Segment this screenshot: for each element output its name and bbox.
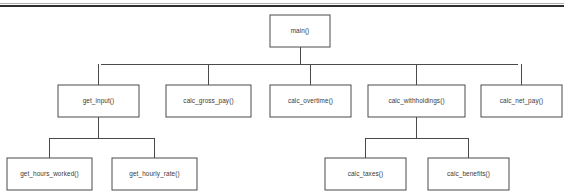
node-main[interactable]: main() — [270, 15, 330, 47]
structure-chart-diagram: main()get_input()calc_gross_pay()calc_ov… — [0, 0, 564, 195]
node-label-calc_taxes: calc_taxes() — [348, 170, 384, 178]
node-label-get_input: get_input() — [83, 97, 115, 105]
diagram-canvas: main()get_input()calc_gross_pay()calc_ov… — [0, 0, 564, 195]
header-rule-group — [0, 3, 564, 6]
node-label-calc_withholdings: calc_withholdings() — [388, 97, 444, 105]
node-layer: main()get_input()calc_gross_pay()calc_ov… — [7, 15, 562, 190]
node-calc_taxes[interactable]: calc_taxes() — [325, 158, 406, 190]
node-label-main: main() — [291, 27, 310, 35]
node-label-get_hours_worked: get_hours_worked() — [20, 170, 79, 178]
node-label-calc_benefits: calc_benefits() — [447, 170, 490, 178]
node-label-calc_gross_pay: calc_gross_pay() — [183, 97, 233, 105]
node-get_hours_worked[interactable]: get_hours_worked() — [7, 158, 92, 190]
node-calc_net_pay[interactable]: calc_net_pay() — [481, 85, 562, 117]
node-calc_benefits[interactable]: calc_benefits() — [428, 158, 509, 190]
node-calc_gross_pay[interactable]: calc_gross_pay() — [166, 85, 251, 117]
node-calc_overtime[interactable]: calc_overtime() — [270, 85, 351, 117]
node-label-get_hourly_rate: get_hourly_rate() — [129, 170, 179, 178]
node-label-calc_net_pay: calc_net_pay() — [500, 97, 543, 105]
node-get_input[interactable]: get_input() — [58, 85, 139, 117]
node-get_hourly_rate[interactable]: get_hourly_rate() — [112, 158, 197, 190]
node-label-calc_overtime: calc_overtime() — [288, 97, 333, 105]
node-calc_withholdings[interactable]: calc_withholdings() — [368, 85, 465, 117]
